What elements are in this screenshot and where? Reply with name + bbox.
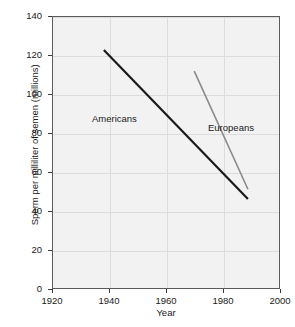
y-axis-tick-label: 60: [14, 167, 42, 177]
x-axis-tick-mark: [166, 289, 167, 293]
x-axis-tick-label: 1940: [92, 296, 126, 306]
y-axis-tick-label: 20: [14, 245, 42, 255]
series-annotation-europeans: Europeans: [208, 123, 254, 133]
y-axis-tick-label: 40: [14, 206, 42, 216]
x-axis-tick-label: 2000: [263, 296, 295, 306]
y-axis-title: Sperm per milliliter of semen (millions): [30, 40, 40, 250]
x-axis-tick-label: 1920: [35, 296, 69, 306]
x-axis-tick-mark: [280, 289, 281, 293]
data-series-layer: [53, 17, 279, 288]
x-axis-tick-mark: [109, 289, 110, 293]
y-axis-tick-label: 80: [14, 128, 42, 138]
x-axis-tick-mark: [52, 289, 53, 293]
x-axis-tick-label: 1980: [206, 296, 240, 306]
y-axis-tick-label: 140: [14, 11, 42, 21]
series-annotation-americans: Americans: [92, 114, 137, 124]
sperm-count-line-chart: Sperm per milliliter of semen (millions)…: [0, 0, 295, 327]
y-axis-tick-label: 120: [14, 50, 42, 60]
x-axis-tick-mark: [223, 289, 224, 293]
plot-area: Americans Europeans: [52, 16, 280, 289]
y-axis-tick-label: 0: [14, 284, 42, 294]
x-axis-tick-label: 1960: [149, 296, 183, 306]
y-axis-tick-label: 100: [14, 89, 42, 99]
x-axis-title: Year: [52, 308, 280, 318]
